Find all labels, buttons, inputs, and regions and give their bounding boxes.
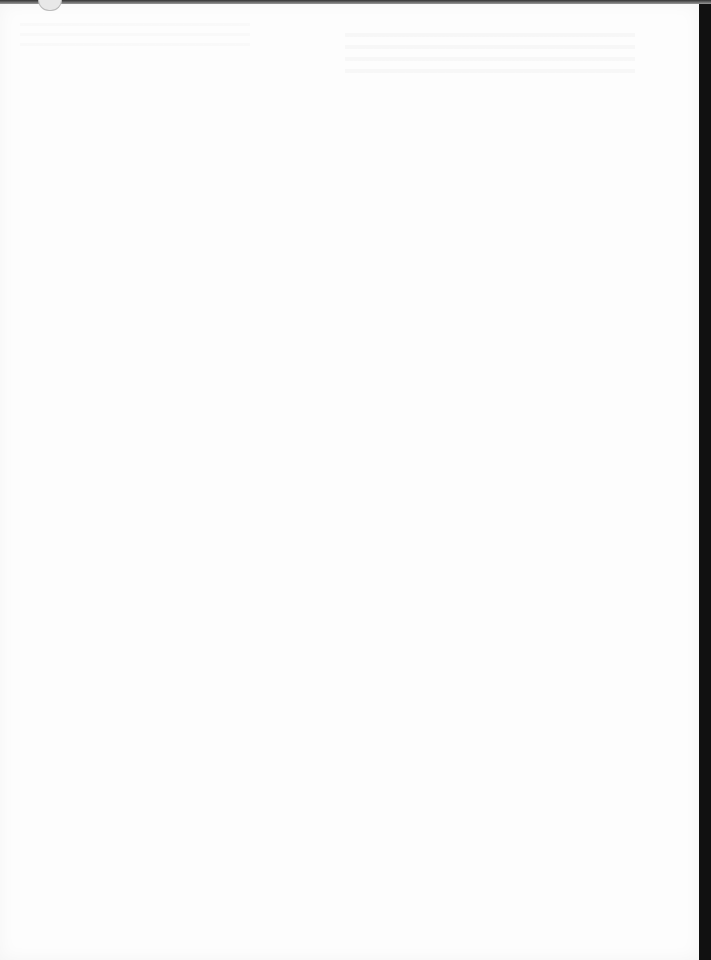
bleed-through-text-right bbox=[345, 33, 635, 73]
paper-page bbox=[0, 3, 699, 960]
bleed-through-text-left bbox=[20, 23, 250, 53]
scan-border-top bbox=[0, 0, 711, 4]
scan-border-right bbox=[699, 0, 711, 960]
